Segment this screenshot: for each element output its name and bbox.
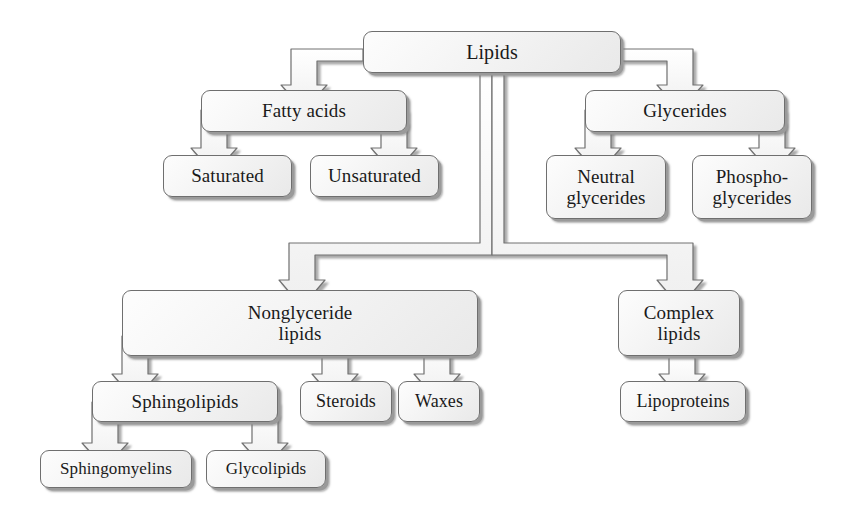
node-steroids[interactable]: Steroids [300,381,392,422]
node-complex-lipids[interactable]: Complexlipids [618,290,740,356]
node-label-glycerides: Glycerides [639,100,730,121]
node-label-phospho-glycerides: Phospho-glycerides [708,166,795,209]
node-label-nonglyceride: Nonglyceridelipids [244,302,357,345]
node-label-sphingolipids: Sphingolipids [128,391,243,412]
node-label-complex-lipids: Complexlipids [640,302,718,345]
node-glycerides[interactable]: Glycerides [585,90,785,132]
node-saturated[interactable]: Saturated [163,155,292,197]
lipid-classification-diagram: LipidsFatty acidsGlyceridesSaturatedUnsa… [0,0,856,511]
node-label-glycolipids: Glycolipids [222,459,310,478]
node-label-waxes: Waxes [411,391,467,411]
node-lipoproteins[interactable]: Lipoproteins [620,381,746,422]
node-nonglyceride[interactable]: Nonglyceridelipids [122,290,478,356]
node-sphingomyelins[interactable]: Sphingomyelins [40,450,192,488]
node-label-lipoproteins: Lipoproteins [632,391,733,411]
node-label-neutral-glycerides: Neutralglycerides [562,166,649,209]
node-label-steroids: Steroids [312,391,380,411]
node-label-saturated: Saturated [187,165,268,186]
node-unsaturated[interactable]: Unsaturated [310,155,439,197]
node-phospho-glycerides[interactable]: Phospho-glycerides [692,155,812,219]
node-label-unsaturated: Unsaturated [324,165,425,186]
node-waxes[interactable]: Waxes [398,381,480,422]
node-label-sphingomyelins: Sphingomyelins [56,459,176,478]
node-label-fatty-acids: Fatty acids [258,100,350,121]
node-label-lipids: Lipids [462,41,522,63]
node-neutral-glycerides[interactable]: Neutralglycerides [546,155,666,219]
node-lipids[interactable]: Lipids [363,31,621,73]
node-glycolipids[interactable]: Glycolipids [206,450,326,488]
node-sphingolipids[interactable]: Sphingolipids [92,381,278,422]
connector-layer [0,0,856,511]
node-fatty-acids[interactable]: Fatty acids [201,90,407,132]
